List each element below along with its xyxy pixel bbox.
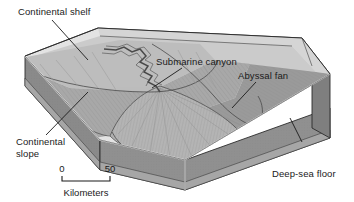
scale-units-label: Kilometers <box>64 187 109 198</box>
scale-max-label: 50 <box>105 163 116 174</box>
label-deep-sea-floor: Deep-sea floor <box>272 168 336 179</box>
label-continental-slope-line2: slope <box>16 148 39 159</box>
scale-min-label: 0 <box>59 163 64 174</box>
label-abyssal-fan: Abyssal fan <box>238 70 288 81</box>
label-continental-shelf: Continental shelf <box>18 6 91 17</box>
block-diagram-figure: Continental shelf Submarine canyon Abyss… <box>0 0 354 202</box>
label-continental-slope-line1: Continental <box>16 136 65 147</box>
scale-bar: 0 50 Kilometers <box>59 163 115 198</box>
scale-bar-bracket <box>62 176 110 181</box>
label-submarine-canyon: Submarine canyon <box>156 56 237 67</box>
diagram-canvas: Continental shelf Submarine canyon Abyss… <box>0 0 354 202</box>
